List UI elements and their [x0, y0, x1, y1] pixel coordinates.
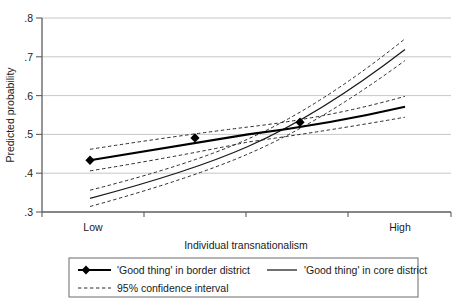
legend-label-confidence-interval: 95% confidence interval — [117, 282, 229, 294]
predicted-probability-chart: .8 .7 .6 .5 .4 .3 Predicted probability … — [0, 0, 457, 301]
chart-background — [0, 0, 457, 301]
y-tick-label-0.6: .6 — [24, 90, 33, 102]
chart-svg: .8 .7 .6 .5 .4 .3 Predicted probability … — [0, 0, 457, 301]
chart-legend: 'Good thing' in border district 'Good th… — [69, 258, 427, 297]
x-axis-title: Individual transnationalism — [184, 239, 308, 251]
y-tick-label-0.4: .4 — [24, 167, 33, 179]
legend-label-border-district: 'Good thing' in border district — [117, 264, 250, 276]
legend-label-core-district: 'Good thing' in core district — [304, 264, 427, 276]
y-tick-label-0.7: .7 — [24, 51, 33, 63]
y-tick-label-0.8: .8 — [24, 12, 33, 24]
x-tick-label-high: High — [389, 221, 411, 233]
y-tick-label-0.3: .3 — [24, 206, 33, 218]
y-tick-label-0.5: .5 — [24, 128, 33, 140]
x-tick-label-low: Low — [83, 221, 103, 233]
y-axis-title: Predicted probability — [4, 67, 16, 163]
